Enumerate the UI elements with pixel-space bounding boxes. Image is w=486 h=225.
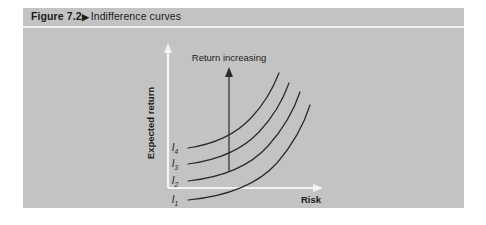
- y-axis-title: Expected return: [145, 87, 156, 160]
- curve-i3: [188, 83, 289, 164]
- figure-number: Figure 7.2: [31, 10, 82, 22]
- x-axis-arrowhead: [313, 184, 323, 192]
- plot-area: Expected return Risk I4 I3 I2 I1 Return …: [23, 28, 464, 208]
- y-axis-arrowhead: [164, 43, 172, 53]
- x-axis-title: Risk: [301, 194, 322, 205]
- figure-header: Figure 7.2▶Indifference curves: [23, 8, 464, 26]
- curve-label-i3: I3: [172, 158, 179, 171]
- return-increasing-arrowhead: [225, 67, 233, 77]
- curve-label-i2-subscript: 2: [174, 181, 179, 188]
- figure-caption-line: Figure 7.2▶Indifference curves: [31, 10, 181, 22]
- curve-label-i1-subscript: 1: [175, 200, 179, 207]
- figure-caption-text: Indifference curves: [91, 10, 181, 22]
- figure-root: Figure 7.2▶Indifference curves Expected …: [0, 0, 486, 225]
- indifference-curves-chart: Expected return Risk I4 I3 I2 I1 Return …: [23, 28, 464, 208]
- return-increasing-label: Return increasing: [192, 52, 266, 63]
- curve-label-i4-subscript: 4: [175, 148, 179, 155]
- curve-label-i1: I1: [172, 194, 179, 207]
- curve-label-i3-subscript: 3: [175, 164, 179, 171]
- curve-label-i2: I2: [172, 175, 179, 188]
- curve-i2: [188, 92, 300, 181]
- curve-i4: [188, 73, 279, 148]
- curve-label-i4: I4: [172, 142, 179, 155]
- figure-panel: Figure 7.2▶Indifference curves Expected …: [23, 8, 464, 208]
- caption-arrow-icon: ▶: [82, 12, 89, 22]
